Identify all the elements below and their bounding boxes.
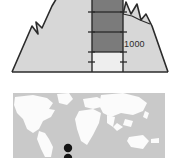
world-map-panel bbox=[13, 93, 165, 158]
right-mountain-mass bbox=[123, 2, 168, 72]
left-mountain-mass bbox=[12, 0, 92, 72]
mountain-profile-panel: 1000 bbox=[0, 0, 178, 80]
map-locality-markers bbox=[64, 144, 72, 158]
altitude-label: 1000 bbox=[124, 39, 145, 49]
altitude-column-bands bbox=[92, 0, 123, 72]
locality-marker-1 bbox=[64, 144, 72, 152]
figure-plate: 1000 bbox=[0, 0, 178, 158]
